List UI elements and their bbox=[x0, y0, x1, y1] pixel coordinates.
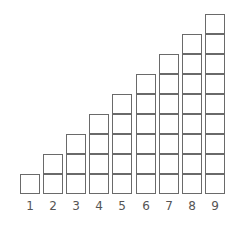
square bbox=[205, 174, 225, 194]
square bbox=[159, 94, 179, 114]
square bbox=[112, 174, 132, 194]
square bbox=[112, 94, 132, 114]
square bbox=[205, 134, 225, 154]
column-label: 9 bbox=[205, 199, 225, 213]
square bbox=[205, 74, 225, 94]
column-label: 8 bbox=[182, 199, 202, 213]
square bbox=[89, 134, 109, 154]
square bbox=[159, 134, 179, 154]
square bbox=[43, 154, 63, 174]
square bbox=[205, 34, 225, 54]
square bbox=[112, 114, 132, 134]
square bbox=[89, 114, 109, 134]
square bbox=[205, 114, 225, 134]
square bbox=[159, 154, 179, 174]
square bbox=[182, 94, 202, 114]
column-label: 3 bbox=[66, 199, 86, 213]
square bbox=[205, 14, 225, 34]
square bbox=[89, 174, 109, 194]
square bbox=[182, 54, 202, 74]
square bbox=[112, 134, 132, 154]
square bbox=[182, 134, 202, 154]
square bbox=[136, 174, 156, 194]
square bbox=[159, 74, 179, 94]
square bbox=[136, 114, 156, 134]
square bbox=[182, 174, 202, 194]
square bbox=[66, 154, 86, 174]
column-label: 4 bbox=[89, 199, 109, 213]
column-label: 5 bbox=[112, 199, 132, 213]
square bbox=[43, 174, 63, 194]
square bbox=[182, 114, 202, 134]
square bbox=[205, 94, 225, 114]
square bbox=[89, 154, 109, 174]
column-label: 1 bbox=[20, 199, 40, 213]
square bbox=[66, 174, 86, 194]
square bbox=[159, 174, 179, 194]
square bbox=[136, 94, 156, 114]
square bbox=[182, 34, 202, 54]
column-label: 2 bbox=[43, 199, 63, 213]
square bbox=[159, 54, 179, 74]
square bbox=[66, 134, 86, 154]
square bbox=[136, 134, 156, 154]
square bbox=[136, 154, 156, 174]
square bbox=[159, 114, 179, 134]
column-label: 7 bbox=[159, 199, 179, 213]
column-label: 6 bbox=[136, 199, 156, 213]
square bbox=[182, 154, 202, 174]
square bbox=[205, 54, 225, 74]
square bbox=[205, 154, 225, 174]
square bbox=[20, 174, 40, 194]
square bbox=[112, 154, 132, 174]
square bbox=[182, 74, 202, 94]
square bbox=[136, 74, 156, 94]
